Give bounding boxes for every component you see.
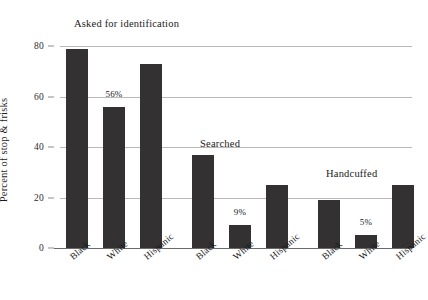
y-axis-title: Percent of stop & frisks <box>0 98 9 203</box>
y-axis-tick-label: 20 <box>34 193 44 203</box>
y-axis-tick <box>48 147 54 148</box>
gridline <box>60 46 412 47</box>
group-label-asked-for-identification: Asked for identification <box>74 18 179 29</box>
y-axis-tick-label: 40 <box>34 142 44 152</box>
y-axis-tick-label: 60 <box>34 92 44 102</box>
y-axis-tick <box>48 46 54 47</box>
x-axis-line <box>54 248 412 249</box>
bar <box>103 107 125 248</box>
bar <box>66 49 88 248</box>
bar <box>192 155 214 248</box>
y-axis-tick-label: 0 <box>39 243 44 253</box>
bar-value-label: 9% <box>234 207 246 217</box>
group-label-handcuffed: Handcuffed <box>326 168 377 179</box>
y-axis-tick <box>48 96 54 97</box>
y-axis-tick-label: 80 <box>34 41 44 51</box>
bar-value-label: 56% <box>105 89 122 99</box>
bar <box>140 64 162 248</box>
bar-value-label: 5% <box>360 217 372 227</box>
y-axis-tick <box>48 197 54 198</box>
group-label-searched: Searched <box>200 138 240 149</box>
y-axis-tick <box>48 248 54 249</box>
